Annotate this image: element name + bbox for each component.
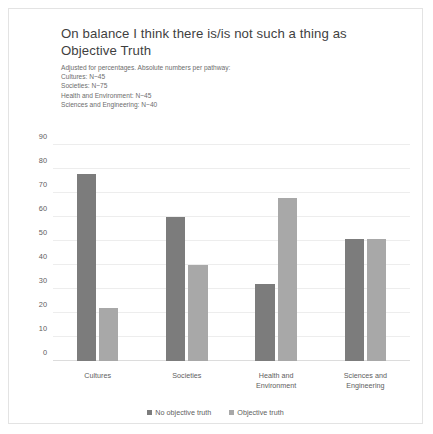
legend-item[interactable]: Objective truth bbox=[229, 408, 283, 417]
bar-group: Health and Environment bbox=[232, 145, 321, 361]
bar-objective-truth[interactable] bbox=[188, 265, 207, 361]
y-axis-tick-label: 90 bbox=[39, 132, 47, 141]
y-axis-tick-label: 50 bbox=[39, 228, 47, 237]
bar-no-objective-truth[interactable] bbox=[255, 284, 274, 361]
legend-label: No objective truth bbox=[155, 408, 211, 417]
x-axis-category-label: Sciences and Engineering bbox=[319, 371, 411, 390]
bar-no-objective-truth[interactable] bbox=[166, 217, 185, 361]
legend-label: Objective truth bbox=[237, 408, 283, 417]
bar-no-objective-truth[interactable] bbox=[77, 174, 96, 361]
x-axis-category-label: Societies bbox=[141, 371, 233, 381]
bar-group: Cultures bbox=[53, 145, 142, 361]
x-axis-category-label: Cultures bbox=[52, 371, 144, 381]
bar-objective-truth[interactable] bbox=[367, 239, 386, 361]
chart-legend: No objective truthObjective truth bbox=[9, 408, 422, 417]
legend-swatch-icon bbox=[229, 410, 234, 415]
plot-area: 0102030405060708090CulturesSocietiesHeal… bbox=[9, 9, 422, 423]
legend-item[interactable]: No objective truth bbox=[147, 408, 211, 417]
y-axis-tick-label: 80 bbox=[39, 156, 47, 165]
bar-no-objective-truth[interactable] bbox=[345, 239, 364, 361]
bar-objective-truth[interactable] bbox=[278, 198, 297, 361]
chart-figure: On balance I think there is/is not such … bbox=[8, 8, 423, 424]
bar-group: Societies bbox=[142, 145, 231, 361]
y-axis-tick-label: 40 bbox=[39, 252, 47, 261]
y-axis-tick-label: 60 bbox=[39, 204, 47, 213]
y-axis-tick-label: 0 bbox=[43, 348, 47, 357]
y-axis-tick-label: 70 bbox=[39, 180, 47, 189]
y-axis-tick-label: 20 bbox=[39, 300, 47, 309]
x-axis-category-label: Health and Environment bbox=[230, 371, 322, 390]
plot-canvas: 0102030405060708090CulturesSocietiesHeal… bbox=[53, 145, 410, 361]
bar-group: Sciences and Engineering bbox=[321, 145, 410, 361]
bar-objective-truth[interactable] bbox=[99, 308, 118, 361]
y-axis-tick-label: 10 bbox=[39, 324, 47, 333]
y-axis-tick-label: 30 bbox=[39, 276, 47, 285]
legend-swatch-icon bbox=[147, 410, 152, 415]
